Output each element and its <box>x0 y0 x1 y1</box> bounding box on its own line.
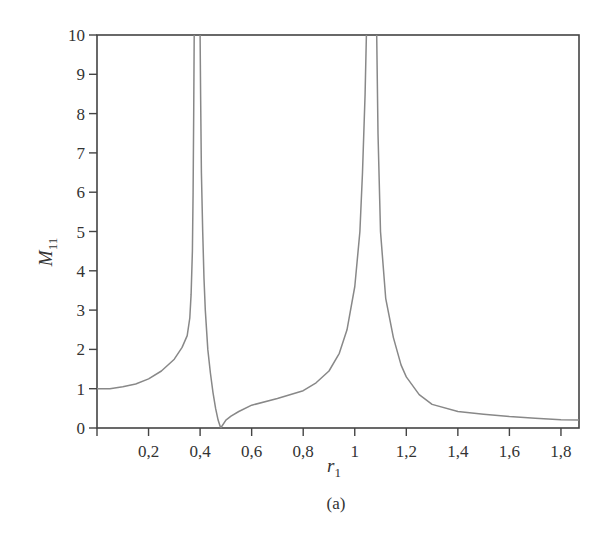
x-tick-label: 1,8 <box>550 442 571 461</box>
x-tick-label: 1 <box>351 442 360 461</box>
curve-segment <box>200 35 221 428</box>
plot-frame <box>97 35 579 428</box>
x-tick-label: 0,8 <box>293 442 314 461</box>
x-tick-label: 0,2 <box>138 442 159 461</box>
y-tick-label: 3 <box>77 301 86 320</box>
y-tick-label: 7 <box>77 144 86 163</box>
x-tick-label: 1,6 <box>499 442 520 461</box>
y-tick-label: 10 <box>68 26 85 45</box>
figure-caption: (a) <box>327 494 346 513</box>
y-tick-label: 9 <box>77 65 86 84</box>
x-tick-label: 0,4 <box>189 442 211 461</box>
x-tick-label: 1,2 <box>396 442 417 461</box>
y-tick-label: 6 <box>77 183 86 202</box>
y-tick-label: 8 <box>77 105 86 124</box>
y-tick-label: 2 <box>77 340 86 359</box>
x-tick-label: 0,6 <box>241 442 262 461</box>
y-tick-label: 0 <box>77 419 86 438</box>
chart-canvas: 012345678910 0,20,40,60,811,21,41,61,8 M… <box>0 0 615 544</box>
x-tick-label: 1,4 <box>447 442 469 461</box>
y-tick-label: 4 <box>77 262 86 281</box>
x-axis-label: r1 <box>327 455 341 480</box>
curve-segment <box>221 35 367 428</box>
y-axis-label: M11 <box>35 238 60 267</box>
y-tick-label: 1 <box>77 380 86 399</box>
y-tick-label: 5 <box>77 223 86 242</box>
y-axis: 012345678910 <box>68 26 97 438</box>
curve-segment <box>97 35 194 389</box>
data-curve <box>97 35 579 428</box>
plot-border <box>97 35 579 428</box>
curve-segment <box>377 35 579 420</box>
